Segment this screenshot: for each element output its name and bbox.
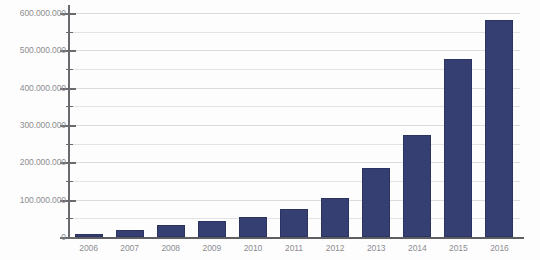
x-axis-tick-label: 2016 <box>479 243 520 253</box>
bar-slot <box>315 13 356 237</box>
x-axis-tick-label: 2007 <box>109 243 150 253</box>
x-axis-tick-label: 2011 <box>273 243 314 253</box>
bar[interactable] <box>321 198 349 237</box>
y-axis-tick-label: 300.000.000 <box>6 120 66 130</box>
bar[interactable] <box>198 221 226 237</box>
bar-chart: 0100.000.000200.000.000300.000.000400.00… <box>0 0 540 260</box>
bar-slot <box>232 13 273 237</box>
x-axis-tick-label: 2006 <box>68 243 109 253</box>
x-axis-tick-label: 2013 <box>356 243 397 253</box>
bar[interactable] <box>157 225 185 237</box>
bar[interactable] <box>239 217 267 237</box>
x-axis-labels-group: 2006200720082009201020112012201320142015… <box>68 243 520 257</box>
bar-slot <box>191 13 232 237</box>
bar[interactable] <box>403 135 431 237</box>
bar-slot <box>109 13 150 237</box>
y-axis-tick-label: 600.000.000 <box>6 8 66 18</box>
bar[interactable] <box>116 230 144 237</box>
y-axis-tick-label: 200.000.000 <box>6 157 66 167</box>
bar-slot <box>150 13 191 237</box>
x-axis-tick-label: 2008 <box>150 243 191 253</box>
x-axis-tick-label: 2012 <box>315 243 356 253</box>
y-axis-tick-label: 400.000.000 <box>6 83 66 93</box>
x-axis-tick-label: 2009 <box>191 243 232 253</box>
y-axis-tick-label: 100.000.000 <box>6 195 66 205</box>
bar[interactable] <box>75 234 103 237</box>
bar[interactable] <box>362 168 390 237</box>
bar-slot <box>397 13 438 237</box>
bar[interactable] <box>444 59 472 237</box>
bar[interactable] <box>485 20 513 237</box>
x-axis-tick-label: 2010 <box>232 243 273 253</box>
x-axis-line <box>62 237 524 239</box>
bar-slot <box>479 13 520 237</box>
x-axis-tick-label: 2014 <box>397 243 438 253</box>
y-axis-tick-label: 0 <box>6 232 66 242</box>
bar-slot <box>356 13 397 237</box>
bars-group <box>68 13 520 237</box>
bar-slot <box>438 13 479 237</box>
bar-slot <box>68 13 109 237</box>
bar[interactable] <box>280 209 308 237</box>
x-axis-tick-label: 2015 <box>438 243 479 253</box>
bar-slot <box>273 13 314 237</box>
y-axis-tick-label: 500.000.000 <box>6 45 66 55</box>
